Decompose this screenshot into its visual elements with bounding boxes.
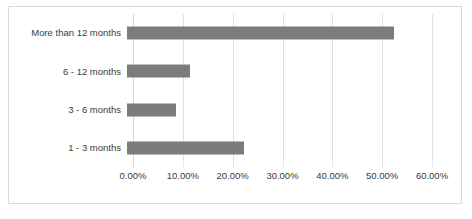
bar xyxy=(127,65,190,78)
x-tick-label: 0.00% xyxy=(120,171,147,181)
category-label: 3 - 6 months xyxy=(9,105,127,115)
x-tick-label: 60.00% xyxy=(416,171,448,181)
category-label: 6 - 12 months xyxy=(9,67,127,77)
bar-row: More than 12 months xyxy=(9,14,463,52)
x-axis-tick-labels: 0.00%10.00%20.00%30.00%40.00%50.00%60.00… xyxy=(133,171,432,191)
bar-row: 6 - 12 months xyxy=(9,52,463,90)
bar-track xyxy=(127,91,457,129)
bar xyxy=(127,141,244,154)
x-tick-label: 50.00% xyxy=(366,171,398,181)
x-tick-label: 20.00% xyxy=(217,171,249,181)
bar-track xyxy=(127,52,457,90)
x-tick-label: 10.00% xyxy=(167,171,199,181)
category-label: 1 - 3 months xyxy=(9,143,127,153)
bar-rows: More than 12 months6 - 12 months3 - 6 mo… xyxy=(9,14,463,167)
bar-track xyxy=(127,129,457,167)
x-tick-label: 30.00% xyxy=(266,171,298,181)
bar-row: 3 - 6 months xyxy=(9,91,463,129)
category-label: More than 12 months xyxy=(9,28,127,38)
bar-track xyxy=(127,14,457,52)
chart-frame: More than 12 months6 - 12 months3 - 6 mo… xyxy=(8,6,462,204)
bar-row: 1 - 3 months xyxy=(9,129,463,167)
bar xyxy=(127,103,176,116)
bar xyxy=(127,27,394,40)
x-tick-label: 40.00% xyxy=(316,171,348,181)
